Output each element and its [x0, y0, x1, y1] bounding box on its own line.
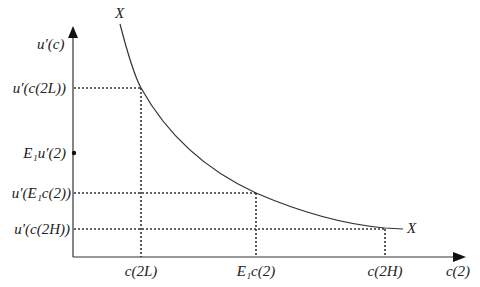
x-tick-c2H: c(2H) — [368, 263, 403, 280]
expected-mu-dot-icon — [72, 151, 76, 155]
y-tick-u-c2L: u′(c(2L)) — [13, 80, 66, 97]
x-axis-arrow-icon — [453, 252, 466, 262]
x-axis-label: c(2) — [446, 263, 470, 280]
guide-lines — [74, 88, 385, 257]
y-axis-label: u′(c) — [37, 36, 64, 53]
y-axis-arrow-icon — [68, 26, 78, 38]
curve-label-top: X — [114, 5, 125, 21]
curve-label-end: X — [406, 220, 417, 236]
y-tick-E1-u2: E₁u′(2) — [22, 145, 66, 162]
y-tick-u-E1c2: u′(E₁c(2)) — [12, 185, 71, 202]
diagram-canvas: u′(c) X X u′(c(2L)) E₁u′(2) u′(E₁c(2)) u… — [0, 0, 480, 287]
marginal-utility-curve — [120, 24, 403, 229]
x-tick-E1c2: E₁c(2) — [236, 263, 276, 280]
marginal-utility-diagram: u′(c) X X u′(c(2L)) E₁u′(2) u′(E₁c(2)) u… — [0, 0, 480, 287]
y-tick-u-c2H: u′(c(2H)) — [14, 221, 70, 238]
x-tick-c2L: c(2L) — [125, 263, 158, 280]
